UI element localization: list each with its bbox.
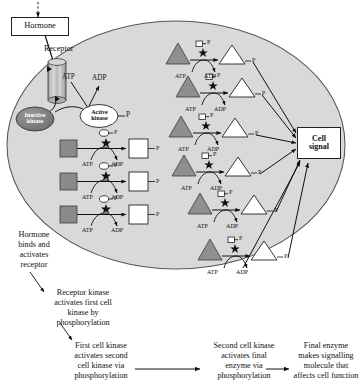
cell-signal-label: Cell signal	[309, 135, 329, 152]
catalyst-phosphate: P	[213, 151, 216, 157]
inactive-kinase-label: Inactive kinase	[17, 112, 53, 125]
annotation-final-enzyme: Final enzyme makes signalling molecule t…	[288, 341, 364, 380]
annotation-first-cell-kinase: First cell kinase activates second cell …	[55, 341, 147, 380]
atp-label: ATP	[82, 194, 93, 200]
adp-label: ADP	[204, 73, 216, 79]
adp-label: ADP	[214, 106, 226, 112]
atp-label: ATP	[178, 146, 189, 152]
catalyst-phosphate: P	[114, 162, 117, 168]
adp-label: ADP	[226, 223, 238, 229]
catalyst-phosphate: P	[207, 39, 210, 45]
first-kinase-reaction-rows	[60, 130, 155, 226]
annotation-second-cell-kinase: Second cell kinase activates final enzym…	[198, 341, 290, 380]
diagram-vector-layer	[0, 0, 364, 391]
atp-label: ATP	[82, 227, 93, 233]
atp-label: ATP	[207, 269, 218, 275]
receptor-atp-label: ATP	[62, 74, 75, 82]
product-phosphate: P	[156, 178, 159, 184]
active-kinase-phosphate: P	[126, 112, 130, 120]
atp-label: ATP	[197, 223, 208, 229]
receptor-adp-label: ADP	[92, 75, 106, 83]
product-phosphate: P	[258, 169, 261, 175]
adp-label: ADP	[111, 227, 123, 233]
active-kinase-label: Active kinase	[82, 109, 117, 122]
product-phosphate: P	[274, 207, 277, 213]
adp-label: ADP	[236, 269, 248, 275]
receptor-label: Receptor	[44, 45, 74, 54]
product-phosphate: P	[255, 130, 258, 136]
diagram-canvas: Hormone Receptor Inactive kinase Active …	[0, 0, 364, 391]
catalyst-phosphate: P	[114, 195, 117, 201]
annotation-hormone-binds: Hormone binds and activates receptor	[2, 230, 66, 269]
catalyst-phosphate: P	[114, 129, 117, 135]
product-phosphate: P	[252, 57, 255, 63]
catalyst-phosphate: P	[229, 189, 232, 195]
atp-label: ATP	[185, 106, 196, 112]
atp-label: ATP	[82, 161, 93, 167]
adp-label: ADP	[210, 185, 222, 191]
catalyst-phosphate: P	[210, 112, 213, 118]
product-phosphate: P	[284, 253, 287, 259]
annotation-receptor-kinase: Receptor kinase activates first cell kin…	[32, 288, 134, 327]
atp-label: ATP	[175, 73, 186, 79]
catalyst-phosphate: P	[217, 72, 220, 78]
catalyst-phosphate: P	[239, 235, 242, 241]
product-phosphate: P	[156, 145, 159, 151]
product-phosphate: P	[262, 90, 265, 96]
hormone-box[interactable]: Hormone	[11, 17, 69, 36]
atp-label: ATP	[181, 185, 192, 191]
product-phosphate: P	[156, 211, 159, 217]
cell-signal-box[interactable]: Cell signal	[297, 127, 341, 159]
